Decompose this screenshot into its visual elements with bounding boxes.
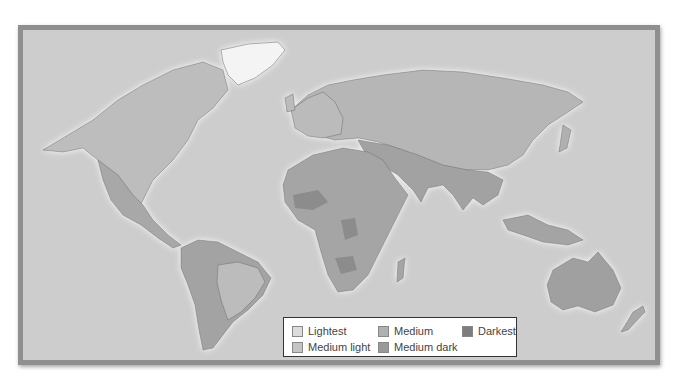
- map-frame: Lightest Medium light Medium Medium dark…: [18, 25, 660, 365]
- australia: [547, 252, 621, 312]
- legend-item-darkest: Darkest: [462, 324, 516, 338]
- legend-label-medium-dark: Medium dark: [394, 340, 458, 354]
- legend-item-lightest: Lightest: [292, 324, 347, 338]
- legend-swatch-medium-light: [292, 342, 303, 353]
- legend-label-darkest: Darkest: [478, 324, 516, 338]
- new-zealand: [621, 306, 645, 332]
- legend-label-medium-light: Medium light: [308, 340, 370, 354]
- legend-item-medium-light: Medium light: [292, 340, 370, 354]
- legend-item-medium: Medium: [378, 324, 433, 338]
- legend-swatch-medium-dark: [378, 342, 389, 353]
- legend-swatch-lightest: [292, 326, 303, 337]
- north-america: [43, 62, 228, 210]
- map-legend: Lightest Medium light Medium Medium dark…: [283, 317, 517, 357]
- world-map: [23, 30, 655, 360]
- southeast-asia: [503, 215, 583, 245]
- legend-item-medium-dark: Medium dark: [378, 340, 458, 354]
- legend-label-lightest: Lightest: [308, 324, 347, 338]
- japan: [559, 125, 571, 152]
- legend-label-medium: Medium: [394, 324, 433, 338]
- map-ocean: Lightest Medium light Medium Medium dark…: [23, 30, 655, 360]
- legend-swatch-medium: [378, 326, 389, 337]
- united-kingdom: [285, 94, 295, 112]
- legend-swatch-darkest: [462, 326, 473, 337]
- greenland: [221, 42, 285, 85]
- madagascar: [397, 258, 405, 282]
